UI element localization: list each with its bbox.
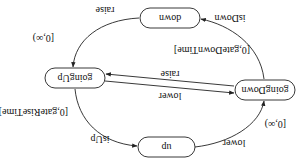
- label-going-down-going-up-action: raise: [160, 69, 179, 80]
- label-going-up-going-down-action: lower: [158, 91, 181, 102]
- state-going-down-label: goingDown: [241, 85, 288, 96]
- state-down: down: [140, 8, 200, 28]
- state-up-label: up: [162, 142, 172, 153]
- state-going-down: goingDown: [235, 80, 295, 100]
- state-going-up: goingUp: [45, 68, 105, 88]
- label-up-going-down-action: lower: [222, 138, 245, 149]
- label-going-up-up-action: isUp: [91, 134, 110, 145]
- label-going-down-down-guard: [0,gateDownTime]: [174, 45, 250, 56]
- label-going-up-up-guard: [0,gateRiseTime]: [0, 107, 68, 118]
- edge-down-to-going-up: [73, 18, 139, 67]
- state-up: up: [138, 137, 195, 157]
- label-up-going-down-guard: [0,∞): [265, 118, 286, 130]
- label-down-going-up-guard: [0,∞): [33, 32, 54, 44]
- label-going-down-down-action: isDown: [214, 13, 245, 24]
- state-going-up-label: goingUp: [58, 73, 93, 84]
- state-diagram: up goingDown down goingUp lower [0,∞) is…: [0, 0, 300, 165]
- state-down-label: down: [159, 13, 181, 24]
- label-down-going-up-action: raise: [95, 5, 114, 16]
